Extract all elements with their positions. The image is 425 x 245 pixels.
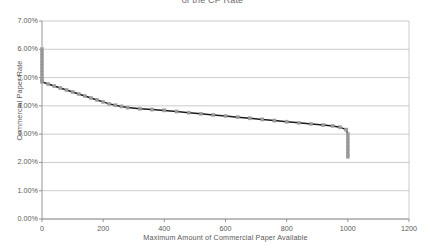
- data-point-marker: [285, 120, 288, 123]
- data-point-marker: [40, 48, 43, 51]
- data-point-marker: [47, 82, 50, 85]
- data-point-marker: [40, 58, 43, 61]
- data-point-marker: [346, 146, 349, 149]
- data-point-marker: [40, 54, 43, 57]
- series-0: [40, 48, 349, 159]
- data-point-marker: [261, 118, 264, 121]
- data-point-marker: [126, 106, 129, 109]
- data-point-marker: [40, 65, 43, 68]
- data-point-marker: [346, 139, 349, 142]
- chart-container: of the CP Rate Commercial Paper Rate Max…: [0, 0, 425, 245]
- data-point-marker: [40, 51, 43, 54]
- gridlines: [42, 21, 409, 219]
- data-point-marker: [346, 155, 349, 158]
- data-point-marker: [114, 104, 117, 107]
- data-point-marker: [151, 108, 154, 111]
- data-point-marker: [310, 122, 313, 125]
- data-point-marker: [199, 112, 202, 115]
- data-point-marker: [346, 150, 349, 153]
- data-point-marker: [346, 143, 349, 146]
- data-point-marker: [346, 136, 349, 139]
- data-point-marker: [297, 121, 300, 124]
- data-point-marker: [40, 61, 43, 64]
- data-point-marker: [175, 110, 178, 113]
- data-point-marker: [89, 96, 92, 99]
- data-point-marker: [138, 107, 141, 110]
- data-point-marker: [40, 80, 43, 83]
- data-point-marker: [187, 111, 190, 114]
- data-point-marker: [346, 133, 349, 136]
- data-point-marker: [65, 88, 68, 91]
- data-point-marker: [248, 117, 251, 120]
- data-point-marker: [236, 116, 239, 119]
- data-point-marker: [53, 84, 56, 87]
- plot-area: [0, 0, 425, 245]
- data-point-marker: [120, 105, 123, 108]
- data-point-marker: [331, 124, 334, 127]
- tick-marks: [39, 21, 409, 222]
- data-point-marker: [77, 92, 80, 95]
- data-point-marker: [273, 119, 276, 122]
- data-point-marker: [163, 109, 166, 112]
- data-point-marker: [40, 71, 43, 74]
- data-point-marker: [95, 98, 98, 101]
- axes: [42, 21, 409, 219]
- data-point-marker: [212, 113, 215, 116]
- data-point-marker: [224, 114, 227, 117]
- data-point-marker: [40, 68, 43, 71]
- data-point-marker: [59, 86, 62, 89]
- data-point-marker: [102, 100, 105, 103]
- data-point-marker: [345, 128, 348, 131]
- data-point-marker: [108, 102, 111, 105]
- data-point-marker: [83, 94, 86, 97]
- data-point-marker: [322, 123, 325, 126]
- data-point-marker: [339, 126, 342, 129]
- data-point-marker: [71, 90, 74, 93]
